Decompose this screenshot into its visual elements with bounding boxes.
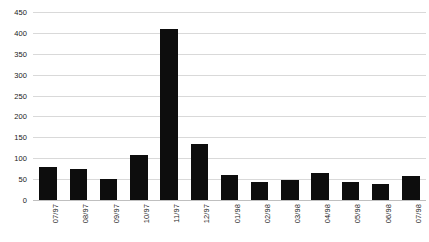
bars-layer: [33, 12, 426, 200]
y-axis-tick-label: 50: [18, 175, 27, 184]
y-axis-tick-label: 100: [14, 154, 27, 163]
x-axis-tick-label: 11/97: [172, 204, 181, 223]
x-axis-tick-label: 03/98: [293, 204, 302, 223]
y-axis-tick-label: 200: [14, 112, 27, 121]
x-axis-tick-label: 05/98: [353, 204, 362, 223]
y-axis-tick-label: 450: [14, 8, 27, 17]
bar-chart: 450400350300250200150100500 07/9708/9709…: [0, 0, 429, 242]
bar: [100, 179, 118, 200]
x-axis-tick-label: 10/97: [142, 204, 151, 223]
bar: [191, 144, 209, 200]
x-axis-tick-label: 02/98: [263, 204, 272, 223]
y-axis-tick-label: 150: [14, 133, 27, 142]
y-axis: 450400350300250200150100500: [0, 12, 31, 200]
x-axis-tick-label: 01/98: [233, 204, 242, 223]
bar: [130, 155, 148, 200]
bar: [402, 176, 420, 200]
y-axis-tick-label: 300: [14, 70, 27, 79]
x-axis-tick-label: 12/97: [202, 204, 211, 223]
bar: [281, 180, 299, 200]
y-axis-tick-label: 250: [14, 91, 27, 100]
x-axis-tick-label: 07/97: [51, 204, 60, 223]
plot-area: [33, 12, 426, 200]
bar: [251, 182, 269, 200]
x-axis-tick-label: 09/97: [112, 204, 121, 223]
x-axis-tick-label: 08/97: [81, 204, 90, 223]
bar: [311, 173, 329, 200]
y-axis-tick-label: 400: [14, 28, 27, 37]
bar: [39, 167, 57, 200]
x-axis-tick-label: 06/98: [384, 204, 393, 223]
bar: [70, 169, 88, 200]
y-axis-tick-label: 0: [23, 196, 27, 205]
bar: [160, 29, 178, 200]
bar: [221, 175, 239, 200]
bar: [372, 184, 390, 200]
x-axis: 07/9708/9709/9710/9711/9712/9701/9802/98…: [33, 200, 426, 242]
x-axis-tick-label: 07/98: [414, 204, 423, 223]
x-axis-tick-label: 04/98: [323, 204, 332, 223]
y-axis-tick-label: 350: [14, 49, 27, 58]
bar: [342, 182, 360, 200]
